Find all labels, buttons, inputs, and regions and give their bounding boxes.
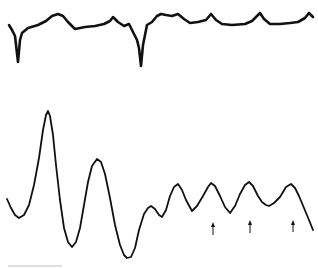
upper-trace-line bbox=[9, 13, 313, 66]
arrow-head bbox=[211, 222, 215, 227]
signal-figure bbox=[0, 0, 318, 268]
arrow-head bbox=[248, 220, 252, 225]
lower-trace-group bbox=[7, 111, 313, 258]
arrow-up-icon bbox=[291, 220, 295, 232]
arrow-up-icon bbox=[248, 220, 252, 233]
arrow-head bbox=[291, 220, 295, 225]
lower-trace-line bbox=[7, 111, 313, 258]
event-arrows bbox=[211, 220, 295, 235]
upper-trace-group bbox=[9, 13, 313, 66]
arrow-up-icon bbox=[211, 222, 215, 235]
